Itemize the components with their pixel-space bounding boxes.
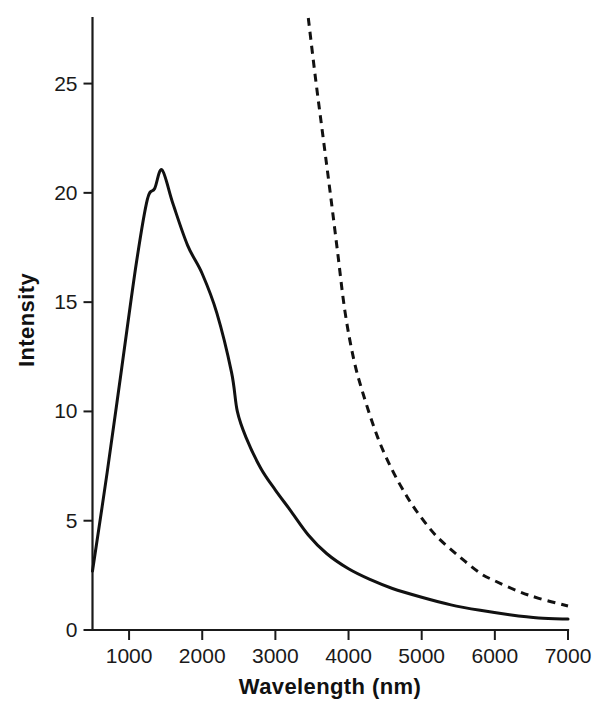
x-tick-label: 6000 [471,644,518,667]
x-tick-label: 2000 [179,644,226,667]
y-tick-label: 20 [54,181,77,204]
y-tick-label: 15 [54,290,77,313]
x-tick-label: 3000 [252,644,299,667]
x-axis-title: Wavelength (nm) [239,674,421,699]
intensity-vs-wavelength-plot: 0510152025 1000200030004000500060007000 … [0,0,607,715]
series-dashed-curve [308,18,568,606]
x-tick-label: 1000 [106,644,153,667]
y-tick-label: 10 [54,399,77,422]
y-tick-label: 0 [66,618,78,641]
y-axis-ticks: 0510152025 [54,72,92,641]
x-axis-ticks: 1000200030004000500060007000 [106,630,592,667]
y-axis-title: Intensity [14,273,39,367]
chart-figure: 0510152025 1000200030004000500060007000 … [0,0,607,715]
y-tick-label: 5 [66,509,78,532]
y-tick-label: 25 [54,72,77,95]
x-tick-label: 7000 [545,644,592,667]
x-tick-label: 4000 [325,644,372,667]
series-solid-curve [93,170,569,619]
x-tick-label: 5000 [398,644,445,667]
